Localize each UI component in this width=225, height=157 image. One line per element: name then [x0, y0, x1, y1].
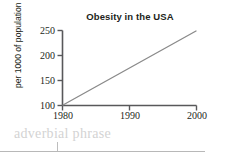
- caption-adverbial-phrase: adverbial phrase: [14, 126, 111, 142]
- data-line-obesity-rate: [63, 31, 196, 105]
- x-tick-label-1980: 1980: [46, 110, 80, 121]
- y-tick-label-250: 250: [27, 25, 55, 36]
- x-tick-label-1990: 1990: [113, 110, 147, 121]
- x-tick-label-2000: 2000: [180, 110, 214, 121]
- figure: Obesity in the USA per 1000 of populatio…: [0, 0, 225, 157]
- y-tick-label-200: 200: [27, 50, 55, 61]
- footer-divider: [0, 151, 205, 152]
- y-tick-label-150: 150: [27, 75, 55, 86]
- footer-tick-mark: [57, 142, 58, 151]
- chart-plot-area: Obesity in the USA per 1000 of populatio…: [0, 0, 225, 122]
